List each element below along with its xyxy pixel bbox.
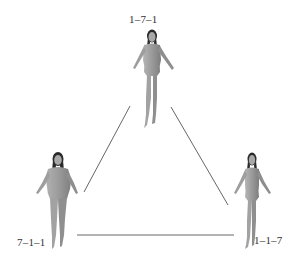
label-bottom-left: 7–1–1 xyxy=(17,236,46,248)
edge-top-to-bottom-right xyxy=(171,107,228,205)
label-bottom-right: 1–1–7 xyxy=(254,234,283,246)
edge-top-to-bottom-left xyxy=(84,106,130,192)
label-top: 1–7–1 xyxy=(129,13,158,25)
figure-top-icon xyxy=(128,28,176,132)
body-shape-triangle-diagram: 1–7–1 7–1–1 1–1–7 xyxy=(0,0,300,263)
